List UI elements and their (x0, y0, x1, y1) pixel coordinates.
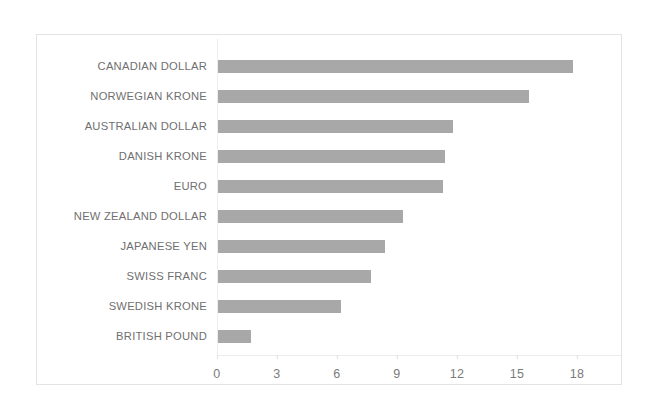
bar-track (217, 291, 621, 321)
category-label: SWISS FRANC (37, 261, 215, 291)
x-tick-label: 9 (377, 367, 417, 381)
bar[interactable] (217, 90, 529, 103)
bar-track (217, 171, 621, 201)
bar-track (217, 201, 621, 231)
bar-row: SWEDISH KRONE (37, 291, 621, 321)
x-tick-label: 6 (317, 367, 357, 381)
category-label: AUSTRALIAN DOLLAR (37, 111, 215, 141)
category-label: DANISH KRONE (37, 141, 215, 171)
bar[interactable] (217, 120, 453, 133)
bar-track (217, 81, 621, 111)
bar-track (217, 51, 621, 81)
bar-row: SWISS FRANC (37, 261, 621, 291)
category-label: CANADIAN DOLLAR (37, 51, 215, 81)
x-tick-mark (397, 355, 398, 359)
bar[interactable] (217, 210, 403, 223)
bar[interactable] (217, 300, 341, 313)
x-axis: 0369121518 (217, 355, 621, 395)
category-label: JAPANESE YEN (37, 231, 215, 261)
bar[interactable] (217, 180, 443, 193)
bar-row: NEW ZEALAND DOLLAR (37, 201, 621, 231)
x-tick-label: 18 (557, 367, 597, 381)
bar[interactable] (217, 240, 385, 253)
category-label: NEW ZEALAND DOLLAR (37, 201, 215, 231)
category-label: SWEDISH KRONE (37, 291, 215, 321)
bar[interactable] (217, 60, 573, 73)
x-tick-mark (277, 355, 278, 359)
axis-baseline (217, 39, 218, 355)
x-tick-mark (517, 355, 518, 359)
bar-row: JAPANESE YEN (37, 231, 621, 261)
bar-row: DANISH KRONE (37, 141, 621, 171)
bar-track (217, 321, 621, 351)
x-tick-mark (337, 355, 338, 359)
x-tick-mark (457, 355, 458, 359)
x-tick-label: 15 (497, 367, 537, 381)
bar-row: EURO (37, 171, 621, 201)
bar-row: CANADIAN DOLLAR (37, 51, 621, 81)
x-tick-label: 12 (437, 367, 477, 381)
bar[interactable] (217, 150, 445, 163)
bar[interactable] (217, 330, 251, 343)
bar-track (217, 261, 621, 291)
bar-row: NORWEGIAN KRONE (37, 81, 621, 111)
bar-track (217, 141, 621, 171)
x-tick-mark (577, 355, 578, 359)
category-label: EURO (37, 171, 215, 201)
x-tick-mark (217, 355, 218, 359)
chart-frame: CANADIAN DOLLARNORWEGIAN KRONEAUSTRALIAN… (36, 34, 622, 385)
category-label: NORWEGIAN KRONE (37, 81, 215, 111)
bar-row: AUSTRALIAN DOLLAR (37, 111, 621, 141)
bar-row: BRITISH POUND (37, 321, 621, 351)
plot-area: CANADIAN DOLLARNORWEGIAN KRONEAUSTRALIAN… (37, 35, 621, 384)
bar-track (217, 231, 621, 261)
x-tick-label: 0 (197, 367, 237, 381)
bar-track (217, 111, 621, 141)
bar[interactable] (217, 270, 371, 283)
category-label: BRITISH POUND (37, 321, 215, 351)
x-tick-label: 3 (257, 367, 297, 381)
